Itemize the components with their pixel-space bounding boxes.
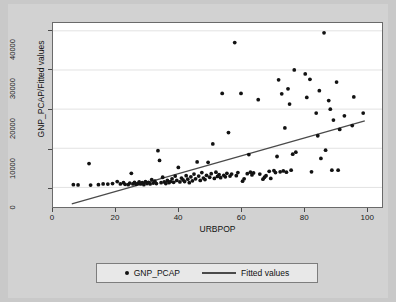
data-point xyxy=(328,107,332,111)
data-point xyxy=(294,150,298,154)
data-point xyxy=(275,155,279,159)
data-point xyxy=(274,171,278,175)
data-point xyxy=(292,68,296,72)
data-point xyxy=(184,174,188,178)
data-point xyxy=(322,31,326,35)
gridlines-group xyxy=(53,31,382,188)
data-point xyxy=(277,78,281,82)
data-point xyxy=(280,92,284,96)
data-point xyxy=(233,41,237,45)
data-point xyxy=(161,175,165,179)
data-point xyxy=(76,183,80,187)
data-point xyxy=(230,172,234,176)
y-tick-label: 0 xyxy=(8,188,17,228)
data-point xyxy=(211,142,215,146)
data-point xyxy=(89,183,93,187)
x-axis-title: URBPOP xyxy=(52,224,383,234)
data-point xyxy=(285,170,289,174)
legend-label-scatter: GNP_PCAP xyxy=(134,268,180,278)
data-point xyxy=(332,118,336,122)
legend-entry-line: Fitted values xyxy=(202,268,289,278)
data-point xyxy=(71,183,75,187)
data-point xyxy=(159,181,163,185)
x-tick-label: 60 xyxy=(226,213,256,222)
data-point xyxy=(227,131,231,135)
scatter-plot-canvas xyxy=(53,23,382,207)
data-point xyxy=(189,175,193,179)
data-point xyxy=(223,175,227,179)
data-point xyxy=(178,180,182,184)
data-point xyxy=(198,178,202,182)
data-point xyxy=(172,180,176,184)
x-tick-mark xyxy=(178,208,179,212)
data-point xyxy=(205,173,209,177)
data-point xyxy=(214,170,218,174)
data-point xyxy=(206,160,210,164)
line-marker-icon xyxy=(202,272,236,273)
data-point xyxy=(283,126,287,130)
data-point xyxy=(129,171,133,175)
x-tick-label: 0 xyxy=(37,213,67,222)
data-point xyxy=(256,98,260,102)
data-point xyxy=(158,159,162,163)
scatter-marker-icon xyxy=(125,271,129,275)
plot-area xyxy=(52,22,383,208)
x-tick-label: 100 xyxy=(352,213,382,222)
data-point xyxy=(170,177,174,181)
x-tick-label: 20 xyxy=(100,213,130,222)
data-point xyxy=(324,148,328,152)
y-tick-label: 40000 xyxy=(8,29,17,69)
x-tick-mark xyxy=(304,208,305,212)
data-point xyxy=(350,124,354,128)
data-point xyxy=(264,174,268,178)
data-point xyxy=(317,89,321,93)
data-point xyxy=(156,149,160,153)
data-point xyxy=(338,128,342,132)
legend-label-line: Fitted values xyxy=(241,268,289,278)
data-point xyxy=(101,182,105,186)
data-point xyxy=(303,72,307,76)
y-tick-label: 10000 xyxy=(8,148,17,188)
data-point xyxy=(310,170,314,174)
data-point xyxy=(239,92,243,96)
data-point xyxy=(247,153,251,157)
x-tick-label: 80 xyxy=(289,213,319,222)
chart-legend: GNP_PCAP Fitted values xyxy=(96,263,318,283)
data-point xyxy=(87,162,91,166)
figure-container: GNP_PCAP/Fitted values 01000020000300004… xyxy=(8,4,388,298)
data-point xyxy=(330,168,334,172)
x-axis: URBPOP 020406080100 xyxy=(52,208,383,248)
data-point xyxy=(314,111,318,115)
y-axis: GNP_PCAP/Fitted values 01000020000300004… xyxy=(8,4,52,228)
data-point xyxy=(208,175,212,179)
data-point xyxy=(219,176,223,180)
data-point xyxy=(192,172,196,176)
data-point xyxy=(209,172,213,176)
data-point xyxy=(258,172,262,176)
data-point xyxy=(327,99,331,103)
data-point xyxy=(308,77,312,81)
data-point xyxy=(252,171,256,175)
x-tick-mark xyxy=(241,208,242,212)
data-point xyxy=(361,111,365,115)
data-point xyxy=(343,114,347,118)
x-tick-mark xyxy=(367,208,368,212)
data-point xyxy=(336,168,340,172)
data-point xyxy=(212,177,216,181)
data-point xyxy=(291,152,295,156)
data-point xyxy=(186,177,190,181)
data-point xyxy=(220,92,224,96)
data-point xyxy=(106,182,110,186)
fitted-line xyxy=(72,121,365,204)
data-point xyxy=(111,182,115,186)
data-point xyxy=(173,174,177,178)
data-point xyxy=(187,181,191,185)
x-tick-mark xyxy=(115,208,116,212)
data-point xyxy=(242,177,246,181)
data-point xyxy=(148,182,152,186)
data-point xyxy=(288,102,292,106)
data-point xyxy=(316,134,320,138)
data-point xyxy=(305,96,309,100)
data-point xyxy=(203,178,207,182)
data-point xyxy=(289,168,293,172)
